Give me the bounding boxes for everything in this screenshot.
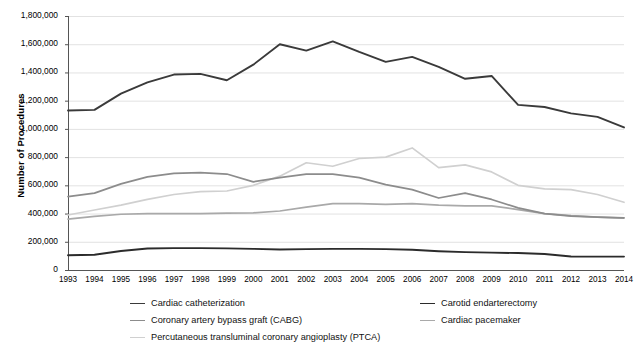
x-tick-label: 1996	[133, 276, 161, 284]
x-tick-label: 1994	[80, 276, 108, 284]
x-tick-label: 1993	[54, 276, 82, 284]
series-line	[68, 173, 624, 218]
x-tick-label: 2005	[372, 276, 400, 284]
x-tick-label: 2013	[584, 276, 612, 284]
series-line	[68, 248, 624, 256]
legend-item[interactable]: Coronary artery bypass graft (CABG)	[130, 315, 302, 325]
legend-label: Cardiac catheterization	[151, 298, 245, 308]
x-tick-label: 2000	[239, 276, 267, 284]
x-tick-label: 1997	[160, 276, 188, 284]
x-tick-label: 2008	[451, 276, 479, 284]
x-tick-label: 1995	[107, 276, 135, 284]
x-tick-label: 2014	[610, 276, 638, 284]
legend-label: Percutaneous transluminal coronary angio…	[151, 332, 380, 342]
x-tick-label: 2010	[504, 276, 532, 284]
series-line	[68, 41, 624, 127]
legend-swatch-icon	[420, 320, 435, 321]
gridlines	[68, 17, 624, 271]
x-tick-label: 2007	[425, 276, 453, 284]
x-tick-label: 2004	[345, 276, 373, 284]
x-tick-label: 2002	[292, 276, 320, 284]
legend-label: Carotid endarterectomy	[441, 298, 537, 308]
x-tick-label: 1999	[213, 276, 241, 284]
legend-swatch-icon	[130, 320, 145, 321]
legend-swatch-icon	[130, 337, 145, 338]
legend-item[interactable]: Carotid endarterectomy	[420, 298, 537, 308]
legend-label: Coronary artery bypass graft (CABG)	[151, 315, 302, 325]
x-tick-label: 2006	[398, 276, 426, 284]
legend-label: Cardiac pacemaker	[441, 315, 521, 325]
x-tick-label: 1998	[186, 276, 214, 284]
x-tick-label: 2003	[319, 276, 347, 284]
x-tick-label: 2011	[531, 276, 559, 284]
x-tick-label: 2009	[478, 276, 506, 284]
series-line	[68, 204, 624, 220]
chart-legend: Cardiac catheterizationCarotid endartere…	[0, 296, 632, 350]
legend-item[interactable]: Cardiac catheterization	[130, 298, 245, 308]
legend-item[interactable]: Cardiac pacemaker	[420, 315, 521, 325]
plot-area	[0, 0, 632, 296]
x-tick-label: 2012	[557, 276, 585, 284]
legend-swatch-icon	[420, 303, 435, 304]
legend-item[interactable]: Percutaneous transluminal coronary angio…	[130, 332, 380, 342]
x-tick-label: 2001	[266, 276, 294, 284]
legend-swatch-icon	[130, 303, 145, 304]
